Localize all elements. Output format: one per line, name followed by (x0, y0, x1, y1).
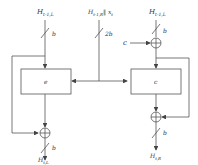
left-bus-width: b (52, 30, 56, 37)
left-input-label: Ht-1,L (36, 8, 54, 17)
block-e-label: e (44, 78, 48, 85)
center-bus-width: 2b (104, 30, 113, 37)
right-bus-width: b (163, 27, 167, 34)
center-input-label: Ht-1,R‖ xt (87, 8, 113, 17)
right-out-bus-width: b (163, 129, 167, 136)
right-output-label: Ht,R (149, 152, 161, 161)
side-input-label: c (123, 39, 127, 47)
right-input-label: Ht-1,L (148, 8, 166, 17)
left-bypass-line (12, 56, 45, 133)
left-out-bus-width: b (52, 144, 56, 151)
left-output-label: Ht,L (37, 156, 49, 165)
diagram-canvas: Ht-1,L b Ht-1,R‖ xt 2b Ht-1,L b c e c b … (0, 0, 198, 165)
